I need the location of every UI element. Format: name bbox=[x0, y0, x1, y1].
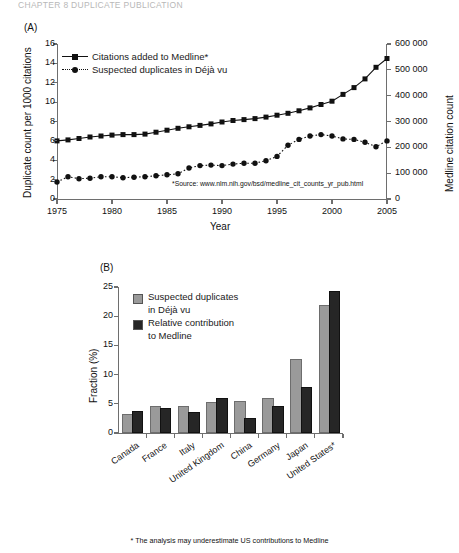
series-marker-1 bbox=[164, 172, 169, 177]
y-ticklabel-panel-b: 10 bbox=[73, 369, 113, 379]
y-ticklabel-panel-b: 15 bbox=[73, 339, 113, 349]
series-marker-1 bbox=[241, 161, 246, 166]
series-marker-0 bbox=[330, 99, 335, 104]
series-marker-0 bbox=[308, 105, 313, 110]
y-ticklabel-right-panel-a: 300 000 bbox=[395, 116, 428, 126]
x-ticklabel-panel-a: 1975 bbox=[43, 206, 71, 216]
y-tick-panel-b bbox=[114, 316, 118, 317]
series-marker-0 bbox=[231, 118, 236, 123]
y-tick-right-panel-a bbox=[387, 95, 391, 96]
y-ticklabel-panel-b: 0 bbox=[73, 427, 113, 437]
series-marker-0 bbox=[297, 108, 302, 113]
bar-relative-contribution bbox=[301, 387, 313, 433]
series-marker-0 bbox=[77, 136, 82, 141]
bar-relative-contribution bbox=[188, 412, 200, 433]
series-marker-0 bbox=[154, 130, 159, 135]
series-marker-1 bbox=[351, 137, 356, 142]
series-marker-1 bbox=[197, 163, 202, 168]
y-ticklabel-left-panel-a: 4 bbox=[0, 154, 55, 164]
series-line-0 bbox=[57, 59, 387, 141]
y-ticklabel-left-panel-a: 10 bbox=[0, 96, 55, 106]
series-canvas-panel-a bbox=[57, 44, 387, 199]
series-marker-1 bbox=[329, 133, 334, 138]
y-tick-right-panel-a bbox=[387, 147, 391, 148]
y-tick-right-panel-a bbox=[387, 43, 391, 44]
bar-relative-contribution bbox=[244, 418, 256, 433]
series-marker-1 bbox=[186, 165, 191, 170]
series-marker-1 bbox=[208, 162, 213, 167]
series-marker-0 bbox=[363, 76, 368, 81]
x-tick-panel-b bbox=[286, 434, 287, 438]
series-marker-1 bbox=[296, 137, 301, 142]
series-marker-1 bbox=[98, 174, 103, 179]
series-marker-1 bbox=[109, 174, 114, 179]
x-ticklabel-panel-a: 1990 bbox=[208, 206, 236, 216]
series-marker-0 bbox=[385, 56, 390, 61]
series-marker-1 bbox=[142, 174, 147, 179]
series-line-1 bbox=[57, 135, 387, 182]
y-tick-panel-b bbox=[114, 432, 118, 433]
y-ticklabel-left-panel-a: 14 bbox=[0, 57, 55, 67]
series-marker-1 bbox=[131, 175, 136, 180]
series-marker-0 bbox=[275, 113, 280, 118]
y-ticklabel-left-panel-a: 12 bbox=[0, 77, 55, 87]
series-marker-0 bbox=[187, 124, 192, 129]
x-ticklabel-panel-a: 1995 bbox=[263, 206, 291, 216]
y-tick-panel-b bbox=[114, 345, 118, 346]
x-tick-panel-a bbox=[386, 200, 387, 204]
series-marker-0 bbox=[264, 115, 269, 120]
series-marker-1 bbox=[263, 158, 268, 163]
series-marker-1 bbox=[219, 163, 224, 168]
x-ticklabel-panel-a: 1980 bbox=[98, 206, 126, 216]
series-marker-0 bbox=[352, 85, 357, 90]
bar-relative-contribution bbox=[216, 398, 228, 433]
bar-relative-contribution bbox=[132, 411, 144, 433]
y-ticklabel-panel-b: 5 bbox=[73, 398, 113, 408]
y-ticklabel-right-panel-a: 100 000 bbox=[395, 167, 428, 177]
axis-label-y-right-panel-a: Medline citation count bbox=[444, 95, 455, 192]
y-ticklabel-panel-b: 20 bbox=[73, 310, 113, 320]
series-marker-1 bbox=[362, 140, 367, 145]
x-tick-panel-b bbox=[174, 434, 175, 438]
axis-label-x-panel-a: Year bbox=[210, 221, 230, 232]
x-ticklabel-panel-a: 2000 bbox=[318, 206, 346, 216]
series-marker-0 bbox=[176, 126, 181, 131]
series-marker-0 bbox=[88, 135, 93, 140]
page-header: CHAPTER 8 DUPLICATE PUBLICATION bbox=[18, 0, 438, 14]
y-ticklabel-right-panel-a: 400 000 bbox=[395, 90, 428, 100]
series-marker-1 bbox=[76, 176, 81, 181]
y-ticklabel-panel-b: 25 bbox=[73, 281, 113, 291]
series-marker-1 bbox=[274, 154, 279, 159]
series-marker-1 bbox=[285, 143, 290, 148]
y-tick-panel-b bbox=[114, 286, 118, 287]
series-marker-1 bbox=[252, 161, 257, 166]
series-marker-1 bbox=[153, 173, 158, 178]
series-marker-0 bbox=[374, 65, 379, 70]
bar-relative-contribution bbox=[329, 291, 341, 433]
series-marker-0 bbox=[66, 137, 71, 142]
series-marker-0 bbox=[165, 128, 170, 133]
y-ticklabel-left-panel-a: 0 bbox=[0, 193, 55, 203]
bar-relative-contribution bbox=[160, 408, 172, 433]
series-marker-0 bbox=[319, 102, 324, 107]
y-ticklabel-right-panel-a: 500 000 bbox=[395, 64, 428, 74]
series-marker-1 bbox=[373, 144, 378, 149]
x-tick-panel-b bbox=[314, 434, 315, 438]
y-ticklabel-right-panel-a: 200 000 bbox=[395, 141, 428, 151]
y-ticklabel-right-panel-a: 600 000 bbox=[395, 38, 428, 48]
y-ticklabel-left-panel-a: 16 bbox=[0, 38, 55, 48]
series-marker-0 bbox=[132, 132, 137, 137]
x-tick-panel-a bbox=[111, 200, 112, 204]
series-marker-0 bbox=[220, 120, 225, 125]
x-tick-panel-b bbox=[258, 434, 259, 438]
series-marker-0 bbox=[121, 132, 126, 137]
series-marker-1 bbox=[384, 138, 389, 143]
series-marker-0 bbox=[242, 117, 247, 122]
x-tick-panel-b bbox=[342, 434, 343, 438]
y-ticklabel-left-panel-a: 6 bbox=[0, 135, 55, 145]
y-ticklabel-left-panel-a: 8 bbox=[0, 116, 55, 126]
series-marker-1 bbox=[230, 161, 235, 166]
y-axis-panel-b bbox=[118, 287, 119, 433]
series-marker-1 bbox=[340, 136, 345, 141]
x-tick-panel-a bbox=[56, 200, 57, 204]
